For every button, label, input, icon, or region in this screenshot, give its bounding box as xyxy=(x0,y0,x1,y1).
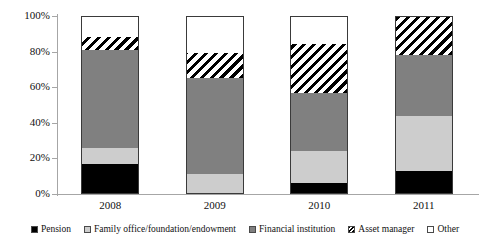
y-tick-mark xyxy=(52,123,57,124)
bar-segment-asset-manager xyxy=(396,16,452,55)
y-tick-label: 60% xyxy=(0,81,50,92)
y-tick-mark xyxy=(52,194,57,195)
y-tick-mark xyxy=(52,52,57,53)
legend-item-1[interactable]: Family office/foundation/endowment xyxy=(84,224,236,235)
x-axis-label-2008: 2008 xyxy=(65,199,155,211)
y-tick-mark xyxy=(52,87,57,88)
y-tick-label: 20% xyxy=(0,152,50,163)
bar-segment-other xyxy=(291,16,347,44)
bar-segment-other xyxy=(82,16,138,37)
y-tick-label: 80% xyxy=(0,46,50,57)
legend-item-0[interactable]: Pension xyxy=(31,224,71,235)
legend-label: Family office/foundation/endowment xyxy=(94,224,236,235)
chart-legend: PensionFamily office/foundation/endowmen… xyxy=(0,224,490,235)
bar-segment-asset-manager xyxy=(187,53,243,78)
bar-segment-family-office xyxy=(291,151,347,183)
legend-item-3[interactable]: Asset manager xyxy=(348,224,414,235)
bar-segment-financial-institution xyxy=(291,93,347,152)
asset-manager-swatch-icon xyxy=(348,226,355,233)
legend-label: Pension xyxy=(41,224,71,235)
other-swatch-icon xyxy=(427,226,434,233)
x-axis-label-2009: 2009 xyxy=(170,199,260,211)
y-tick-mark xyxy=(52,16,57,17)
bar-segment-financial-institution xyxy=(396,55,452,116)
y-tick-mark xyxy=(52,158,57,159)
legend-item-2[interactable]: Financial institution xyxy=(249,224,335,235)
bar-segment-pension xyxy=(291,183,347,194)
bar-segment-family-office xyxy=(187,174,243,194)
bar-segment-asset-manager xyxy=(82,37,138,49)
legend-label: Asset manager xyxy=(358,224,414,235)
bar-segment-asset-manager xyxy=(291,44,347,92)
bar-segment-other xyxy=(187,16,243,53)
pension-swatch-icon xyxy=(31,226,38,233)
legend-item-4[interactable]: Other xyxy=(427,224,459,235)
x-axis-line xyxy=(57,194,479,195)
bar-segment-family-office xyxy=(396,116,452,171)
x-axis-label-2010: 2010 xyxy=(274,199,364,211)
stacked-bar-2008 xyxy=(81,16,139,194)
bar-segment-pension xyxy=(396,171,452,194)
y-tick-label: 0% xyxy=(0,188,50,199)
stacked-bar-2011 xyxy=(395,16,453,194)
stacked-bar-2010 xyxy=(290,16,348,194)
x-axis-label-2011: 2011 xyxy=(379,199,469,211)
stacked-bar-chart: 100%80%60%40%20%0% 2008200920102011 Pens… xyxy=(0,0,490,243)
plot-area xyxy=(58,16,476,194)
bar-segment-financial-institution xyxy=(187,78,243,174)
family-office-swatch-icon xyxy=(84,226,91,233)
bar-segment-family-office xyxy=(82,148,138,164)
bar-segment-pension xyxy=(82,164,138,194)
legend-label: Other xyxy=(437,224,459,235)
financial-institution-swatch-icon xyxy=(249,226,256,233)
y-tick-label: 40% xyxy=(0,117,50,128)
y-tick-label: 100% xyxy=(0,10,50,21)
stacked-bar-2009 xyxy=(186,16,244,194)
legend-label: Financial institution xyxy=(259,224,335,235)
bar-segment-financial-institution xyxy=(82,50,138,148)
